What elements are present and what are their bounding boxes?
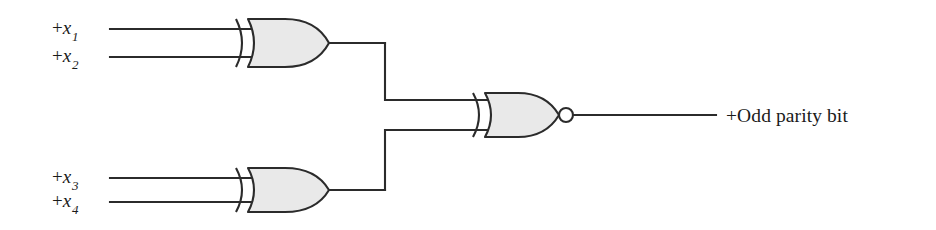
input-x1-subscript: 1 bbox=[72, 29, 79, 44]
xor-top-extra-arc bbox=[236, 19, 242, 67]
xor-bottom-extra-arc bbox=[236, 168, 242, 212]
xor-bottom-body bbox=[248, 168, 329, 212]
wire-net-n1 bbox=[385, 43, 489, 100]
gate-xor-top bbox=[110, 19, 385, 67]
input-label-x2: +x2 bbox=[52, 46, 78, 69]
wire-net-n2 bbox=[385, 130, 489, 190]
interconnect-wires bbox=[385, 43, 489, 190]
output-label-odd-parity-bit: +Odd parity bit bbox=[726, 106, 848, 126]
input-x4-variable: x bbox=[63, 190, 72, 211]
inversion-bubble-icon bbox=[559, 108, 573, 122]
input-x4-subscript: 4 bbox=[72, 202, 79, 217]
gate-xor-bottom bbox=[110, 168, 385, 212]
input-x2-prefix: + bbox=[52, 45, 63, 66]
xor-top-body bbox=[248, 19, 329, 67]
input-x1-variable: x bbox=[63, 17, 72, 38]
input-x3-prefix: + bbox=[52, 166, 63, 187]
xnor-body bbox=[485, 93, 559, 137]
logic-circuit-diagram: +x1 +x2 +x3 +x4 +Odd parity bit bbox=[0, 0, 936, 230]
input-label-x4: +x4 bbox=[52, 191, 78, 214]
input-label-x3: +x3 bbox=[52, 167, 78, 190]
input-x2-subscript: 2 bbox=[72, 57, 79, 72]
input-label-x1: +x1 bbox=[52, 18, 78, 41]
gate-xnor-output bbox=[473, 93, 716, 137]
input-x3-variable: x bbox=[63, 166, 72, 187]
input-x2-variable: x bbox=[63, 45, 72, 66]
input-x4-prefix: + bbox=[52, 190, 63, 211]
input-x1-prefix: + bbox=[52, 17, 63, 38]
